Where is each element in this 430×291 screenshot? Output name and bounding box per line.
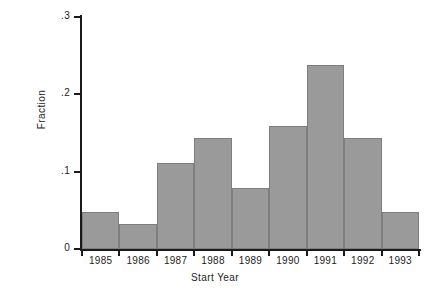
histogram-figure: Fraction Start Year 0.1.2.3 198519861987… — [0, 0, 430, 291]
histogram-bar — [344, 138, 381, 249]
x-axis-label: Start Year — [0, 272, 430, 283]
histogram-bar — [194, 138, 231, 249]
histogram-bar — [269, 126, 306, 249]
x-tick-label: 1993 — [378, 255, 422, 266]
histogram-bar — [307, 65, 344, 249]
histogram-bar — [82, 212, 119, 249]
histogram-bar — [157, 163, 194, 249]
y-tick-mark — [74, 248, 81, 250]
histogram-bar — [382, 212, 419, 249]
y-axis-label: Fraction — [36, 75, 47, 145]
histogram-bar — [119, 224, 156, 249]
y-tick-mark — [74, 16, 81, 18]
y-tick-mark — [74, 93, 81, 95]
y-tick-mark — [74, 171, 81, 173]
x-axis-line — [80, 249, 421, 251]
x-tick-mark — [418, 251, 420, 256]
y-tick-label: .3 — [42, 10, 70, 21]
histogram-bar — [232, 188, 269, 249]
y-tick-label: 0 — [42, 242, 70, 253]
y-tick-label: .2 — [42, 87, 70, 98]
y-tick-label: .1 — [42, 165, 70, 176]
